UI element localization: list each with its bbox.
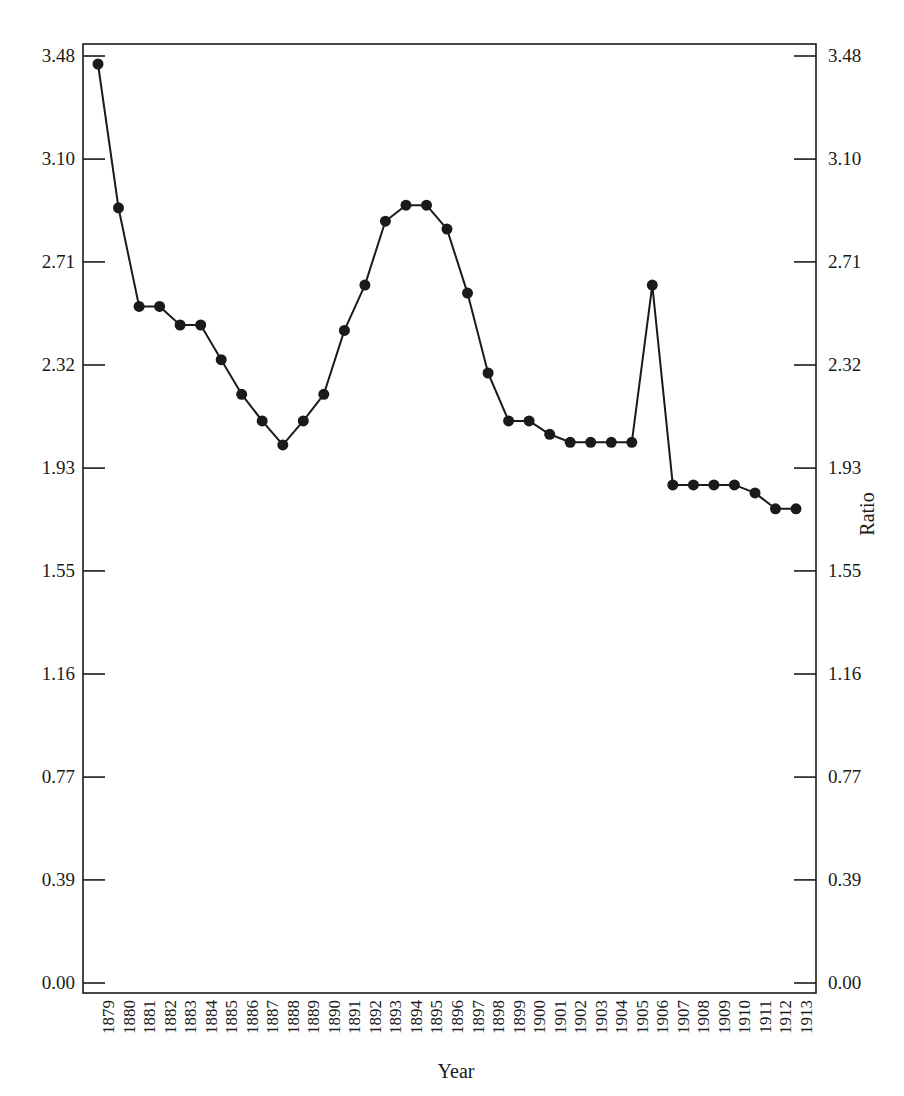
y-tick-label-right: 3.10 xyxy=(828,148,861,169)
x-tick-label: 1881 xyxy=(140,1000,159,1034)
y-tick-label: 0.39 xyxy=(42,869,75,890)
x-tick-label: 1909 xyxy=(715,1000,734,1034)
x-tick-label: 1912 xyxy=(776,1000,795,1034)
data-point-marker xyxy=(339,325,350,336)
x-tick-label: 1905 xyxy=(633,1000,652,1034)
x-tick-label: 1888 xyxy=(284,1000,303,1034)
x-tick-label: 1885 xyxy=(222,1000,241,1034)
data-point-marker xyxy=(175,320,186,331)
y-tick-label-right: 0.00 xyxy=(828,972,861,993)
data-point-marker xyxy=(667,479,678,490)
y-tick-label: 2.71 xyxy=(42,251,75,272)
y-tick-label: 1.16 xyxy=(42,663,75,684)
x-tick-label: 1891 xyxy=(345,1000,364,1034)
y-tick-label: 1.93 xyxy=(42,457,75,478)
data-point-marker xyxy=(708,479,719,490)
x-tick-label: 1884 xyxy=(202,1000,221,1035)
data-point-marker xyxy=(380,216,391,227)
x-tick-label: 1880 xyxy=(120,1000,139,1034)
data-point-marker xyxy=(791,503,802,514)
x-tick-label: 1879 xyxy=(99,1000,118,1034)
x-tick-label: 1896 xyxy=(448,1000,467,1034)
data-series xyxy=(93,59,802,515)
data-point-marker xyxy=(421,200,432,211)
x-tick-label: 1890 xyxy=(325,1000,344,1034)
x-tick-label: 1908 xyxy=(694,1000,713,1034)
data-point-marker xyxy=(318,389,329,400)
x-tick-label: 1897 xyxy=(469,1000,488,1035)
x-tick-label: 1886 xyxy=(243,1000,262,1034)
data-point-marker xyxy=(688,479,699,490)
y-tick-label-right: 2.71 xyxy=(828,251,861,272)
x-tick-label: 1913 xyxy=(797,1000,816,1034)
y-tick-label: 3.10 xyxy=(42,148,75,169)
data-point-marker xyxy=(606,437,617,448)
line-chart: 0.000.390.771.161.551.932.322.713.103.48… xyxy=(0,0,904,1096)
data-point-marker xyxy=(626,437,637,448)
data-point-marker xyxy=(729,479,740,490)
y-tick-label: 2.32 xyxy=(42,354,75,375)
y-tick-label: 0.77 xyxy=(42,766,75,787)
data-point-marker xyxy=(503,415,514,426)
y-tick-label-right: 1.16 xyxy=(828,663,861,684)
x-tick-label: 1882 xyxy=(161,1000,180,1034)
x-axis-title: Year xyxy=(438,1060,475,1082)
x-tick-label: 1887 xyxy=(263,1000,282,1035)
x-tick-label: 1906 xyxy=(653,1000,672,1034)
y-tick-label-right: 0.77 xyxy=(828,766,861,787)
x-tick-label: 1910 xyxy=(735,1000,754,1034)
x-tick-label: 1900 xyxy=(530,1000,549,1034)
x-axis-year-labels: 1879188018811882188318841885188618871888… xyxy=(99,1000,816,1035)
x-tick-label: 1904 xyxy=(612,1000,631,1035)
x-tick-label: 1902 xyxy=(571,1000,590,1034)
y-tick-label-right: 0.39 xyxy=(828,869,861,890)
y-tick-label-right: 3.48 xyxy=(828,45,861,66)
data-point-marker xyxy=(277,439,288,450)
x-tick-label: 1889 xyxy=(304,1000,323,1034)
data-point-marker xyxy=(298,415,309,426)
x-tick-label: 1907 xyxy=(674,1000,693,1035)
plot-frame xyxy=(83,44,816,993)
x-tick-label: 1893 xyxy=(386,1000,405,1034)
chart-canvas: 0.000.390.771.161.551.932.322.713.103.48… xyxy=(0,0,904,1096)
data-point-marker xyxy=(154,301,165,312)
data-point-marker xyxy=(565,437,576,448)
x-tick-label: 1895 xyxy=(427,1000,446,1034)
data-point-marker xyxy=(544,429,555,440)
data-point-marker xyxy=(750,487,761,498)
data-point-marker xyxy=(134,301,145,312)
x-tick-label: 1892 xyxy=(366,1000,385,1034)
x-tick-label: 1883 xyxy=(181,1000,200,1034)
data-point-marker xyxy=(93,59,104,70)
data-point-marker xyxy=(524,415,535,426)
data-point-marker xyxy=(462,288,473,299)
x-tick-label: 1901 xyxy=(551,1000,570,1034)
series-line xyxy=(98,64,796,509)
x-tick-label: 1911 xyxy=(756,1000,775,1033)
data-point-marker xyxy=(770,503,781,514)
data-point-marker xyxy=(195,320,206,331)
x-tick-label: 1898 xyxy=(489,1000,508,1034)
right-y-axis: 0.000.390.771.161.551.932.322.713.103.48 xyxy=(794,45,861,993)
data-point-marker xyxy=(216,354,227,365)
data-point-marker xyxy=(401,200,412,211)
y-tick-label-right: 1.55 xyxy=(828,560,861,581)
y-axis-title-ratio: Ratio xyxy=(856,492,878,535)
data-point-marker xyxy=(585,437,596,448)
data-point-marker xyxy=(236,389,247,400)
data-point-marker xyxy=(442,224,453,235)
x-tick-label: 1903 xyxy=(592,1000,611,1034)
x-tick-label: 1899 xyxy=(510,1000,529,1034)
data-point-marker xyxy=(257,415,268,426)
data-point-marker xyxy=(483,368,494,379)
data-point-marker xyxy=(113,202,124,213)
data-point-marker xyxy=(647,280,658,291)
y-tick-label: 1.55 xyxy=(42,560,75,581)
left-y-axis: 0.000.390.771.161.551.932.322.713.103.48 xyxy=(42,45,105,993)
data-point-marker xyxy=(359,280,370,291)
y-tick-label: 0.00 xyxy=(42,972,75,993)
x-tick-label: 1894 xyxy=(407,1000,426,1035)
y-tick-label-right: 2.32 xyxy=(828,354,861,375)
y-tick-label-right: 1.93 xyxy=(828,457,861,478)
y-tick-label: 3.48 xyxy=(42,45,75,66)
